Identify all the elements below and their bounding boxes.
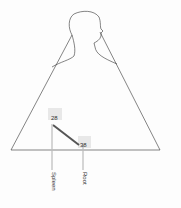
root-label: Root (82, 172, 88, 185)
root-value: 38 (80, 142, 87, 148)
head-outline (52, 11, 117, 67)
triangle-right-edge (100, 32, 160, 150)
diagram-canvas: 28 38 Spleen Root (0, 0, 181, 208)
spleen-value: 28 (51, 115, 58, 121)
body-diagram (0, 0, 181, 208)
spleen-label: Spleen (51, 172, 57, 191)
connector-line (53, 125, 79, 145)
